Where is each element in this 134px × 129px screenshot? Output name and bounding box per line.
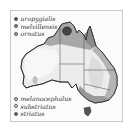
- legend-label: ornatus: [21, 30, 45, 38]
- legend-label: melvillensis: [21, 23, 58, 31]
- legend-item-uropygialis: uropygialis: [14, 15, 57, 23]
- legend-label: uropygialis: [21, 15, 56, 23]
- legend-item-ornatus: ornatus: [14, 30, 57, 38]
- range-sw-pocket: [33, 77, 37, 84]
- legend-item-melvillensis: melvillensis: [14, 23, 57, 31]
- legend-top: uropygialis melvillensis ornatus: [14, 15, 57, 38]
- legend-swatch-icon: [14, 104, 18, 108]
- legend-swatch-icon: [14, 97, 18, 101]
- legend-item-melanocephalus: melanocephalus: [14, 95, 71, 103]
- legend-swatch-icon: [14, 32, 18, 36]
- range-uropygialis: [63, 27, 72, 35]
- legend-swatch-icon: [14, 24, 18, 28]
- legend-swatch-icon: [14, 17, 18, 21]
- legend-label: melanocephalus: [21, 95, 72, 103]
- legend-swatch-icon: [14, 112, 18, 116]
- legend-item-striatus: striatus: [14, 110, 71, 118]
- legend-item-substriatus: substriatus: [14, 103, 71, 111]
- tasmania: [84, 107, 91, 116]
- legend-label: striatus: [21, 110, 45, 118]
- legend-bottom: melanocephalus substriatus striatus: [14, 95, 71, 118]
- legend-label: substriatus: [21, 103, 56, 111]
